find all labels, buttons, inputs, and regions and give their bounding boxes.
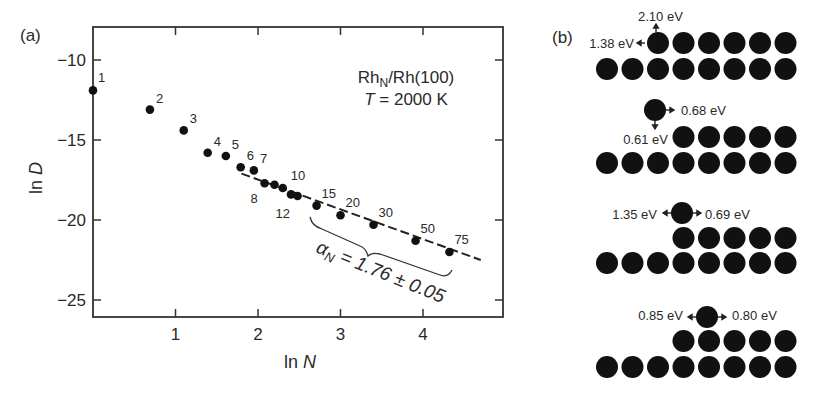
adatom	[696, 306, 718, 328]
atom	[724, 356, 746, 378]
atom	[596, 152, 618, 174]
panel-a-label: (a)	[20, 26, 41, 45]
y-tick-label: −15	[57, 131, 86, 150]
energy-label: 0.85 eV	[638, 308, 683, 323]
point-label: 10	[291, 168, 305, 183]
point-label: 50	[421, 221, 435, 236]
atom	[673, 32, 695, 54]
atom	[724, 58, 746, 80]
atom-configurations	[596, 32, 797, 378]
data-point	[445, 248, 454, 257]
atom	[749, 126, 771, 148]
point-label: 8	[251, 191, 258, 206]
panel-b-label: (b)	[552, 28, 573, 47]
atom	[673, 126, 695, 148]
atom	[775, 330, 797, 352]
atom	[622, 58, 644, 80]
atom	[673, 58, 695, 80]
point-label: 4	[214, 134, 221, 149]
atom	[775, 252, 797, 274]
atom	[724, 152, 746, 174]
atom	[749, 356, 771, 378]
x-axis-label: ln N	[284, 352, 317, 372]
point-label: 30	[379, 205, 393, 220]
atom	[647, 32, 669, 54]
atom	[749, 152, 771, 174]
figure: (a) 1234−10−15−20−25 ln D ln N RhN/Rh(10…	[0, 0, 815, 394]
data-point	[260, 179, 269, 188]
data-point	[146, 105, 155, 114]
atom	[647, 252, 669, 274]
atom	[775, 126, 797, 148]
atom	[724, 32, 746, 54]
atom	[698, 227, 720, 249]
x-tick-label: 3	[336, 325, 345, 344]
atom	[775, 356, 797, 378]
atom	[596, 252, 618, 274]
atom	[673, 152, 695, 174]
energy-label: 0.61 eV	[623, 132, 668, 147]
atom	[698, 356, 720, 378]
y-tick-label: −25	[57, 291, 86, 310]
point-label: 5	[232, 137, 239, 152]
data-point	[278, 184, 287, 193]
y-tick-label: −20	[57, 211, 86, 230]
atom	[622, 252, 644, 274]
point-label: 20	[346, 195, 360, 210]
atom	[698, 32, 720, 54]
atom	[647, 356, 669, 378]
data-point	[336, 211, 345, 220]
atom	[673, 252, 695, 274]
data-point	[270, 181, 279, 190]
energy-label: 0.68 eV	[681, 103, 726, 118]
atom	[749, 32, 771, 54]
atom	[647, 58, 669, 80]
atom	[724, 330, 746, 352]
x-tick-label: 2	[253, 325, 262, 344]
atom	[698, 152, 720, 174]
point-label: 7	[260, 151, 267, 166]
system-label: RhN/Rh(100)	[358, 68, 455, 90]
point-label: 6	[247, 148, 254, 163]
atom	[775, 58, 797, 80]
temperature-label: T = 2000 K	[364, 90, 448, 109]
point-label: 3	[190, 111, 197, 126]
energy-label: 1.35 eV	[612, 207, 657, 222]
atom	[698, 58, 720, 80]
data-point	[89, 86, 98, 95]
atom	[724, 252, 746, 274]
data-point	[312, 201, 321, 210]
atom	[596, 58, 618, 80]
atom	[775, 152, 797, 174]
atom	[673, 356, 695, 378]
data-point	[411, 237, 420, 246]
point-label: 1	[98, 70, 105, 85]
energy-label: 0.80 eV	[732, 308, 777, 323]
atom	[749, 330, 771, 352]
point-label: 2	[156, 91, 163, 106]
energy-label: 2.10 eV	[638, 9, 683, 24]
y-tick-label: −10	[57, 51, 86, 70]
energy-label: 1.38 eV	[589, 36, 634, 51]
data-point	[222, 152, 231, 161]
atom	[749, 58, 771, 80]
data-point	[179, 126, 188, 135]
atom	[622, 152, 644, 174]
atom	[775, 227, 797, 249]
atom	[749, 227, 771, 249]
y-axis-label: ln D	[26, 162, 46, 194]
atom	[724, 126, 746, 148]
adatom	[644, 99, 666, 121]
atom	[673, 330, 695, 352]
data-point	[203, 149, 212, 158]
adatom	[671, 202, 693, 224]
atom	[775, 32, 797, 54]
atom	[622, 356, 644, 378]
atom	[698, 126, 720, 148]
point-label: 12	[276, 206, 290, 221]
point-label: 75	[454, 232, 468, 247]
point-label: 15	[322, 186, 336, 201]
data-point	[236, 163, 245, 172]
data-point	[369, 221, 378, 230]
x-tick-label: 1	[171, 325, 180, 344]
